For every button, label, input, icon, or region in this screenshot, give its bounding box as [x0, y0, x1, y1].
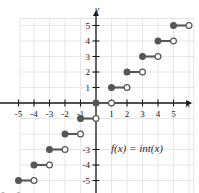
x-axis-label: x: [185, 98, 191, 109]
y-axis-label: y: [94, 4, 100, 15]
function-formula-label: f(x) = int(x): [111, 142, 163, 155]
plot-text-overlay: x y f(x) = int(x): [0, 0, 199, 193]
graph-figure: -5-4-3-2-11234554321-3-4-5 x y f(x) = in…: [0, 0, 199, 193]
